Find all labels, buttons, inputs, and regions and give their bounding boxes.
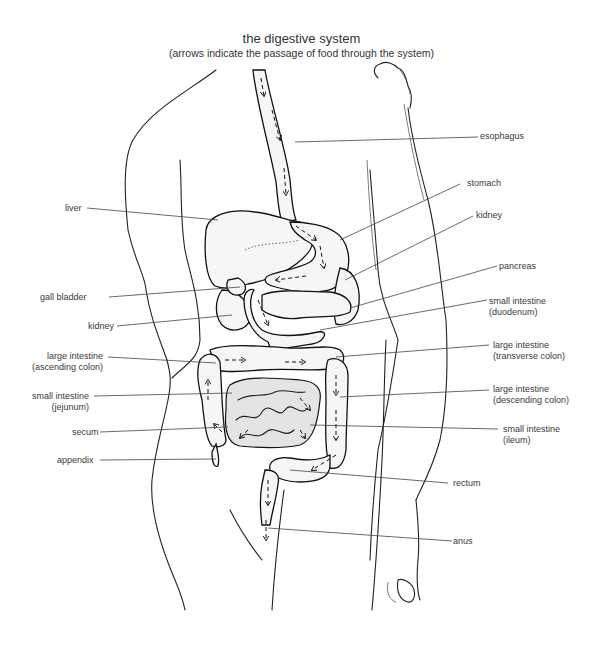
label-ascending-colon: large intestine (ascending colon)	[32, 351, 103, 373]
label-duodenum: small intestine (duodenum)	[489, 296, 546, 318]
pancreas	[262, 291, 351, 319]
label-rectum: rectum	[453, 478, 481, 489]
label-esophagus: esophagus	[480, 131, 524, 142]
label-descending-colon: large intestine (descending colon)	[493, 384, 569, 406]
label-transverse-colon: large intestine (transverse colon)	[493, 340, 565, 362]
gall-bladder	[227, 278, 246, 295]
label-kidney-left: kidney	[88, 321, 114, 332]
label-kidney-right: kidney	[476, 210, 502, 221]
label-jejunum: small intestine (jejunum)	[32, 391, 89, 413]
label-anus: anus	[453, 536, 473, 547]
small-intestine	[214, 378, 320, 447]
label-secum: secum	[72, 427, 99, 438]
label-liver: liver	[65, 203, 82, 214]
label-gall-bladder: gall bladder	[40, 292, 87, 303]
label-stomach: stomach	[467, 178, 501, 189]
label-appendix: appendix	[57, 455, 94, 466]
label-pancreas: pancreas	[499, 261, 536, 272]
esophagus	[253, 70, 296, 222]
label-ileum: small intestine (ileum)	[503, 424, 560, 446]
